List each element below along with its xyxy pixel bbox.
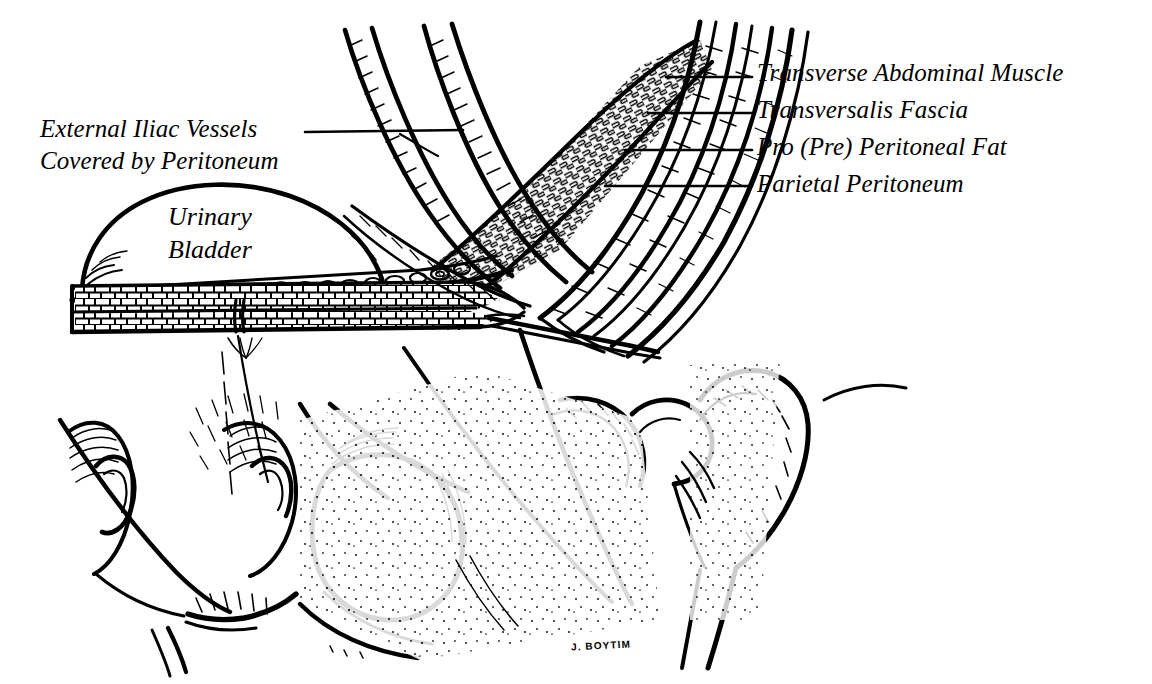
label-urinary-bladder-line1: Urinary [168, 200, 252, 233]
leader-external-iliac-vessels [305, 130, 463, 132]
anatomical-figure: External Iliac Vessels Covered by Perito… [0, 0, 1152, 684]
label-transversalis-fascia: Transversalis Fascia [757, 94, 968, 125]
label-transverse-abdominal-muscle: Transverse Abdominal Muscle [757, 57, 1063, 88]
label-external-iliac-vessels: External Iliac Vessels Covered by Perito… [40, 113, 279, 177]
illustration-canvas [0, 0, 1152, 684]
label-pro-pre-peritoneal-fat: Pro (Pre) Peritoneal Fat [757, 131, 1007, 162]
label-urinary-bladder-line2: Bladder [168, 233, 252, 266]
label-external-iliac-vessels-line1: External Iliac Vessels [40, 113, 279, 145]
label-parietal-peritoneum: Parietal Peritoneum [757, 168, 964, 199]
label-external-iliac-vessels-line2: Covered by Peritoneum [40, 145, 279, 177]
femur [632, 360, 906, 668]
label-urinary-bladder: Urinary Bladder [168, 200, 252, 266]
pelvic-bone [60, 330, 680, 676]
bladder-wall [70, 280, 524, 358]
